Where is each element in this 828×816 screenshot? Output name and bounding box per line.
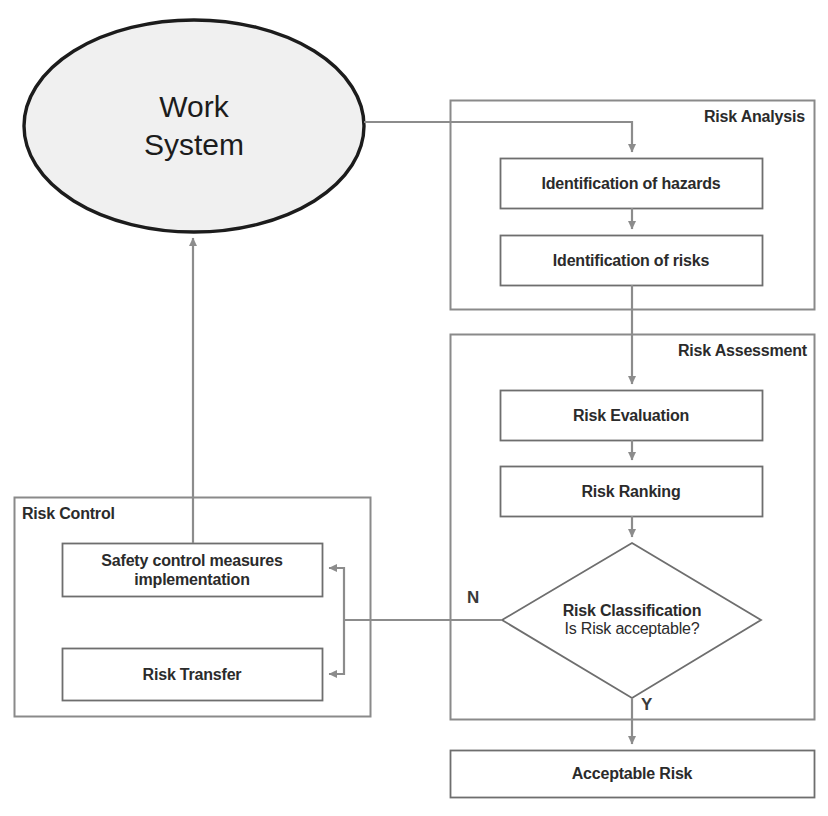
risk-management-flowchart: Work System Risk Analysis Risk Assessmen… — [0, 0, 828, 816]
branch-label-no: N — [467, 588, 479, 608]
label-risk-classification: Risk Classification Is Risk acceptable? — [512, 592, 752, 648]
box-safety-control-measures-implementation — [63, 544, 323, 597]
box-risk-evaluation — [501, 391, 763, 441]
label-risk-classification-question: Is Risk acceptable? — [565, 620, 700, 638]
work-system-label-line1: Work — [159, 88, 228, 126]
box-identification-of-risks — [501, 236, 763, 286]
group-title-risk-assessment: Risk Assessment — [678, 342, 807, 360]
work-system-label: Work System — [24, 60, 364, 192]
work-system-label-line2: System — [144, 126, 244, 164]
group-title-risk-analysis: Risk Analysis — [704, 108, 805, 126]
box-risk-ranking — [501, 467, 763, 517]
label-risk-classification-title: Risk Classification — [563, 602, 701, 620]
box-risk-transfer — [63, 649, 323, 701]
box-acceptable-risk — [451, 751, 815, 798]
connector-no-to-risk-transfer — [329, 620, 344, 674]
group-title-risk-control: Risk Control — [22, 505, 115, 523]
box-identification-of-hazards — [501, 159, 763, 209]
connector-work-system-to-identification-of-hazards — [364, 122, 632, 152]
branch-label-yes: Y — [641, 695, 652, 715]
connector-no-to-safety-control-measures — [329, 568, 344, 620]
